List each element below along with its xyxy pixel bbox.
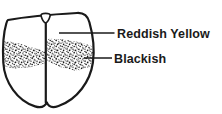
figure-canvas: Reddish Yellow Blackish (0, 0, 222, 114)
elytra-diagram: Reddish Yellow Blackish (0, 0, 222, 114)
label-reddish-yellow: Reddish Yellow (117, 27, 210, 41)
label-blackish: Blackish (114, 52, 166, 66)
